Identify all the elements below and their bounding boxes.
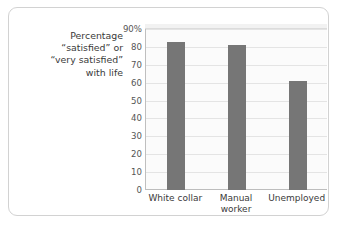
x-axis-label-line: White collar bbox=[140, 193, 210, 204]
plot-area: 0102030405060708090% bbox=[145, 29, 327, 190]
figure-frame: Percentage“satisfied” or“very satisfied”… bbox=[8, 7, 329, 216]
y-axis-tick-label: 70 bbox=[131, 60, 142, 69]
x-axis-label-line: Unemployed bbox=[262, 193, 332, 204]
y-axis-tick-label: 50 bbox=[131, 96, 142, 105]
x-axis-label: Unemployed bbox=[262, 193, 332, 204]
bar bbox=[228, 45, 246, 190]
y-axis-tick-label: 60 bbox=[131, 78, 142, 87]
bar bbox=[167, 42, 185, 190]
x-axis-label-line: Manual bbox=[201, 193, 271, 204]
caption-line: with life bbox=[19, 67, 123, 79]
bar bbox=[289, 81, 307, 190]
y-axis-tick-label: 10 bbox=[131, 168, 142, 177]
y-axis-tick-label: 90% bbox=[123, 25, 142, 34]
caption-line: Percentage bbox=[19, 30, 123, 42]
x-axis-label-line: worker bbox=[201, 204, 271, 215]
y-axis-tick-label: 40 bbox=[131, 114, 142, 123]
x-axis-label: Manualworker bbox=[201, 193, 271, 214]
chart-caption: Percentage“satisfied” or“very satisfied”… bbox=[19, 30, 123, 79]
caption-line: “very satisfied” bbox=[19, 54, 123, 66]
x-axis-label: White collar bbox=[140, 193, 210, 204]
y-axis-tick-label: 30 bbox=[131, 132, 142, 141]
gridline bbox=[146, 29, 327, 30]
y-axis-tick-label: 80 bbox=[131, 43, 142, 52]
y-axis-tick-label: 20 bbox=[131, 150, 142, 159]
caption-line: “satisfied” or bbox=[19, 42, 123, 54]
